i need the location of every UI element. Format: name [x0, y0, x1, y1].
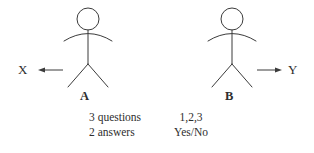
note-column-quantities: 3 questions 2 answers [89, 110, 163, 140]
arrow-left-icon [38, 67, 63, 72]
endpoint-label-x: X [18, 63, 27, 76]
actor-a-leg-left [68, 64, 88, 87]
note-values-answers: Yes/No [163, 125, 219, 140]
actor-label-a: A [80, 90, 89, 103]
actor-a-head-icon [77, 8, 99, 30]
stick-figure-b [208, 8, 256, 87]
arrow-right-icon [257, 67, 282, 72]
note-quantity-questions: 3 questions [89, 110, 163, 125]
note-quantity-answers: 2 answers [89, 125, 163, 140]
actor-a-leg-right [88, 64, 108, 87]
note-values-questions: 1,2,3 [163, 110, 219, 125]
diagram-canvas: X Y A B 3 questions 2 answers 1,2,3 Yes/… [0, 0, 314, 153]
stick-figure-a [64, 8, 112, 87]
note-column-values: 1,2,3 Yes/No [163, 110, 219, 140]
actor-b-head-icon [221, 8, 243, 30]
actor-b-leg-left [212, 64, 232, 87]
actor-b-leg-right [232, 64, 252, 87]
endpoint-label-y: Y [288, 63, 297, 76]
actor-label-b: B [225, 90, 233, 103]
